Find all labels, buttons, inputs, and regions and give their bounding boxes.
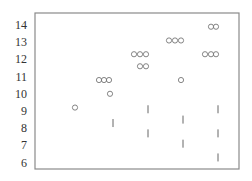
y-tick-label: 6 — [21, 156, 27, 170]
y-tick-label: 14 — [15, 18, 27, 32]
circle-marker — [213, 24, 218, 29]
circle-marker — [208, 52, 213, 57]
circle-marker — [137, 52, 142, 57]
y-tick-label: 12 — [15, 52, 27, 66]
circle-marker — [213, 52, 218, 57]
circle-marker — [143, 52, 148, 57]
scatter-chart: 14131211109876 — [0, 0, 252, 181]
circle-marker — [72, 105, 77, 110]
y-tick-label: 9 — [21, 104, 27, 118]
circle-marker — [101, 77, 106, 82]
data-markers — [72, 24, 218, 161]
circle-marker — [107, 91, 112, 96]
circle-marker — [202, 52, 207, 57]
circle-marker — [96, 77, 101, 82]
circle-marker — [137, 64, 142, 69]
y-axis-tick-labels: 14131211109876 — [15, 18, 27, 170]
y-tick-label: 10 — [15, 87, 27, 101]
y-tick-label: 8 — [21, 121, 27, 135]
y-tick-label: 7 — [21, 138, 27, 152]
circle-marker — [172, 38, 177, 43]
y-tick-label: 13 — [15, 35, 27, 49]
circle-marker — [166, 38, 171, 43]
circle-marker — [178, 77, 183, 82]
y-tick-label: 11 — [15, 70, 27, 84]
circle-marker — [208, 24, 213, 29]
circle-marker — [143, 64, 148, 69]
plot-frame — [35, 13, 239, 169]
circle-marker — [131, 52, 136, 57]
circle-marker — [106, 77, 111, 82]
circle-marker — [178, 38, 183, 43]
